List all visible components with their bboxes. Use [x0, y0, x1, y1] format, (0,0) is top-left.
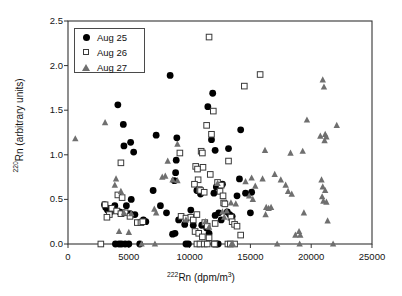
- scatter-plot-figure: 0.00.51.01.52.02.5 050001000015000200002…: [0, 0, 402, 296]
- data-point-square: [207, 172, 213, 178]
- data-point-circle: [167, 72, 174, 79]
- data-point-square: [200, 150, 206, 156]
- series-aug-27: [72, 76, 340, 246]
- data-point-triangle: [334, 122, 340, 128]
- data-point-circle: [173, 157, 180, 164]
- data-point-circle: [172, 169, 179, 176]
- data-point-square: [195, 166, 201, 172]
- y-tick-label: 2.0: [33, 61, 63, 71]
- data-point-triangle: [287, 149, 293, 155]
- x-tick-label: 20000: [281, 252, 341, 262]
- data-point-triangle: [228, 199, 234, 205]
- data-point-circle: [173, 134, 180, 141]
- data-point-square: [209, 131, 215, 137]
- y-axis-isotope-superscript: 220: [12, 161, 19, 172]
- data-point-circle: [185, 241, 192, 248]
- data-point-circle: [237, 126, 244, 133]
- data-point-triangle: [299, 148, 305, 154]
- data-point-triangle: [319, 193, 325, 199]
- y-tick-label: 1.0: [33, 150, 63, 160]
- data-point-triangle: [112, 182, 118, 188]
- data-point-triangle: [126, 229, 132, 235]
- data-point-circle: [123, 202, 130, 209]
- data-point-circle: [150, 187, 157, 194]
- data-point-square: [220, 193, 226, 199]
- data-point-circle: [211, 190, 218, 197]
- filled-triangle-icon: [75, 64, 97, 71]
- legend-label-aug-27: Aug 27: [97, 62, 127, 73]
- data-point-triangle: [321, 83, 327, 89]
- data-point-square: [212, 241, 218, 247]
- data-point-triangle: [324, 217, 330, 223]
- data-point-square: [192, 181, 198, 187]
- data-point-triangle: [262, 147, 268, 153]
- data-point-square: [201, 189, 207, 195]
- y-tick-label: 2.5: [33, 16, 63, 26]
- data-point-square: [257, 72, 263, 78]
- data-point-triangle: [102, 119, 108, 125]
- data-point-circle: [128, 196, 135, 203]
- data-point-circle: [125, 241, 132, 248]
- data-point-circle: [163, 209, 170, 216]
- data-point-triangle: [317, 132, 323, 138]
- data-point-circle: [114, 101, 121, 108]
- data-point-triangle: [262, 211, 268, 217]
- data-point-square: [238, 232, 244, 238]
- data-point-circle: [153, 132, 160, 139]
- data-point-circle: [172, 230, 179, 237]
- data-point-triangle: [318, 176, 324, 182]
- data-point-triangle: [304, 116, 310, 122]
- data-point-square: [102, 202, 108, 208]
- data-point-triangle: [296, 228, 302, 234]
- data-point-square: [206, 235, 212, 241]
- data-point-square: [206, 34, 212, 40]
- data-point-triangle: [301, 209, 307, 215]
- data-point-triangle: [118, 188, 124, 194]
- x-tick-label: 0: [38, 252, 98, 262]
- data-point-triangle: [282, 182, 288, 188]
- data-point-circle: [120, 121, 127, 128]
- data-point-circle: [212, 147, 219, 154]
- data-point-square: [222, 201, 228, 207]
- data-point-square: [98, 241, 104, 247]
- data-point-triangle: [278, 176, 284, 182]
- data-point-square: [194, 212, 200, 218]
- data-point-square: [234, 223, 240, 229]
- data-point-square: [119, 195, 125, 201]
- x-tick-label: 10000: [160, 252, 220, 262]
- data-point-circle: [236, 175, 243, 182]
- legend-item-aug-25: Aug 25: [75, 30, 144, 44]
- data-point-circle: [225, 145, 232, 152]
- data-point-circle: [121, 142, 128, 149]
- legend-label-aug-26: Aug 26: [97, 47, 127, 58]
- legend-box: Aug 25 Aug 26 Aug 27: [74, 28, 145, 73]
- legend-label-aug-25: Aug 25: [97, 32, 127, 43]
- data-point-circle: [187, 207, 194, 214]
- data-point-circle: [130, 149, 137, 156]
- filled-circle-icon: [75, 34, 97, 41]
- data-point-triangle: [272, 171, 278, 177]
- data-point-triangle: [259, 175, 265, 181]
- data-point-triangle: [252, 182, 258, 188]
- y-axis-title: 220Rn (arbitrary units): [14, 31, 25, 221]
- data-point-circle: [234, 192, 241, 199]
- data-point-square: [140, 219, 146, 225]
- data-point-square: [190, 217, 196, 223]
- x-tick-label: 25000: [342, 252, 402, 262]
- data-point-triangle: [165, 157, 171, 163]
- data-point-triangle: [116, 228, 122, 234]
- x-tick-label: 15000: [220, 252, 280, 262]
- open-square-icon: [75, 49, 97, 55]
- data-point-triangle: [113, 175, 119, 181]
- x-axis-title-suffix: ): [232, 272, 235, 283]
- data-point-square: [242, 83, 248, 89]
- y-tick-label: 1.5: [33, 105, 63, 115]
- data-point-circle: [157, 202, 164, 209]
- data-point-triangle: [242, 178, 248, 184]
- legend-item-aug-27: Aug 27: [75, 60, 144, 74]
- legend-item-aug-26: Aug 26: [75, 45, 144, 59]
- data-point-square: [200, 164, 206, 170]
- data-point-square: [204, 241, 210, 247]
- y-axis-title-body: Rn (arbitrary units): [14, 78, 25, 161]
- data-point-triangle: [248, 174, 254, 180]
